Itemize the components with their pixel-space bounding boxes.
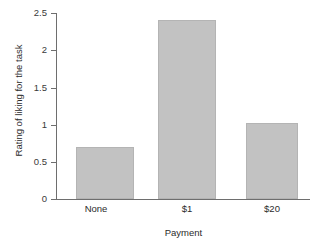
x-tick-label-none: None: [46, 203, 146, 214]
x-axis-line: [56, 199, 310, 200]
bar-chart-figure: 2.5 2 1.5 1 0.5 0 None $1 $20 Payment Ra…: [0, 0, 319, 250]
y-tick-label-2-5: 2.5: [7, 8, 47, 18]
plot-area: [57, 13, 310, 199]
y-tick-label-0: 0: [7, 194, 47, 204]
bar-none: [76, 147, 134, 199]
x-tick-label-20-dollar: $20: [222, 203, 319, 214]
bar-20-dollar: [246, 123, 298, 199]
x-axis-title: Payment: [57, 227, 310, 238]
y-axis-title: Rating of liking for the task: [13, 21, 24, 181]
y-tick-mark-0: [51, 199, 57, 200]
bar-1-dollar: [158, 20, 216, 199]
